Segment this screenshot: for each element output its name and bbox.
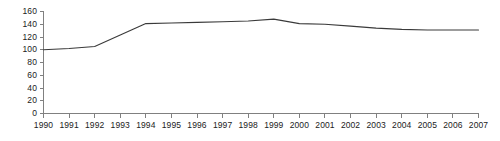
- y-axis-tick-label: 20: [7, 96, 37, 104]
- x-axis-tick-label: 2007: [464, 121, 494, 130]
- y-axis-tick-label: 80: [7, 58, 37, 66]
- y-axis-tick-label: 120: [7, 33, 37, 41]
- data-line-index: [44, 19, 479, 50]
- y-axis-tick-label: 40: [7, 84, 37, 92]
- line-chart: 020406080100120140160 199019911992199319…: [0, 0, 500, 141]
- y-axis-tick-label: 100: [7, 45, 37, 53]
- y-axis-tick-label: 60: [7, 71, 37, 79]
- y-axis-tick-label: 140: [7, 20, 37, 28]
- y-axis-tick-label: 160: [7, 7, 37, 15]
- y-axis-tick-label: 0: [7, 109, 37, 117]
- chart-series: [44, 19, 479, 50]
- chart-axes: [40, 11, 479, 118]
